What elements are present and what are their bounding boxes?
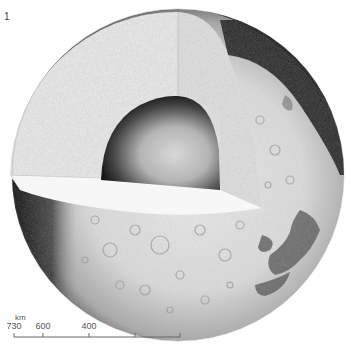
- moon-cutaway-illustration: [0, 0, 357, 352]
